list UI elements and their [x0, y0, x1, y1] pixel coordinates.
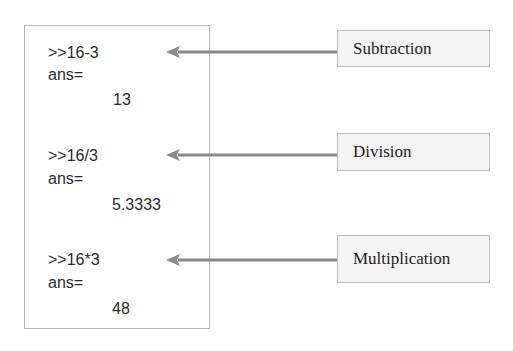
- result-multiplication: 48: [112, 300, 130, 318]
- command-subtraction: >>16-3: [48, 44, 99, 62]
- label-subtraction: Subtraction: [337, 30, 490, 67]
- ans-label: ans=: [48, 274, 83, 292]
- command-division: >>16/3: [48, 147, 98, 165]
- command-multiplication: >>16*3: [48, 251, 100, 269]
- arrow-left-icon: [166, 45, 338, 59]
- label-multiplication: Multiplication: [337, 235, 490, 283]
- result-division: 5.3333: [112, 196, 161, 214]
- label-division: Division: [337, 133, 490, 171]
- ans-label: ans=: [48, 170, 83, 188]
- arrow-left-icon: [166, 253, 338, 267]
- result-subtraction: 13: [113, 91, 131, 109]
- arrow-left-icon: [166, 148, 338, 162]
- ans-label: ans=: [48, 66, 83, 84]
